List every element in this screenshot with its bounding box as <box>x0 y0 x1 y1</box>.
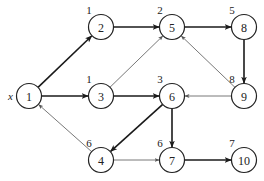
node-distance-label: 2 <box>157 4 163 16</box>
node-id-label: 6 <box>169 90 175 104</box>
node-9: 98 <box>229 73 256 109</box>
edge-3-to-5 <box>110 36 163 87</box>
node-id-label: 3 <box>98 90 104 104</box>
directed-graph-diagram: 12131465263768598107 x <box>0 0 264 181</box>
node-1: 1 <box>17 84 42 109</box>
node-id-label: 5 <box>169 21 175 35</box>
edge-4-to-1 <box>39 105 92 152</box>
node-4: 46 <box>86 137 113 173</box>
node-id-label: 7 <box>169 154 175 168</box>
node-distance-label: 1 <box>86 4 92 16</box>
node-2: 21 <box>86 4 113 40</box>
node-distance-label: 1 <box>86 73 92 85</box>
node-distance-label: 6 <box>157 137 163 149</box>
node-id-label: 8 <box>241 21 247 35</box>
node-7: 76 <box>157 137 184 173</box>
edge-1-to-2 <box>38 36 92 87</box>
nodes-layer: 12131465263768598107 <box>17 4 257 173</box>
node-6: 63 <box>157 73 184 109</box>
node-10: 107 <box>229 137 256 173</box>
node-id-label: 4 <box>98 154 104 168</box>
node-id-label: 10 <box>238 154 250 168</box>
node-distance-label: 6 <box>86 137 92 149</box>
node-5: 52 <box>157 4 184 40</box>
node-3: 31 <box>86 73 113 109</box>
edge-6-to-4 <box>111 104 163 151</box>
source-label: x <box>7 90 13 102</box>
node-distance-label: 8 <box>229 73 235 85</box>
node-id-label: 2 <box>98 21 104 35</box>
node-distance-label: 7 <box>229 137 235 149</box>
edge-9-to-5 <box>181 36 235 87</box>
node-8: 85 <box>229 4 256 40</box>
node-distance-label: 5 <box>229 4 235 16</box>
node-id-label: 9 <box>241 90 247 104</box>
node-distance-label: 3 <box>157 73 163 85</box>
edges-layer <box>38 27 244 160</box>
node-id-label: 1 <box>26 90 32 104</box>
